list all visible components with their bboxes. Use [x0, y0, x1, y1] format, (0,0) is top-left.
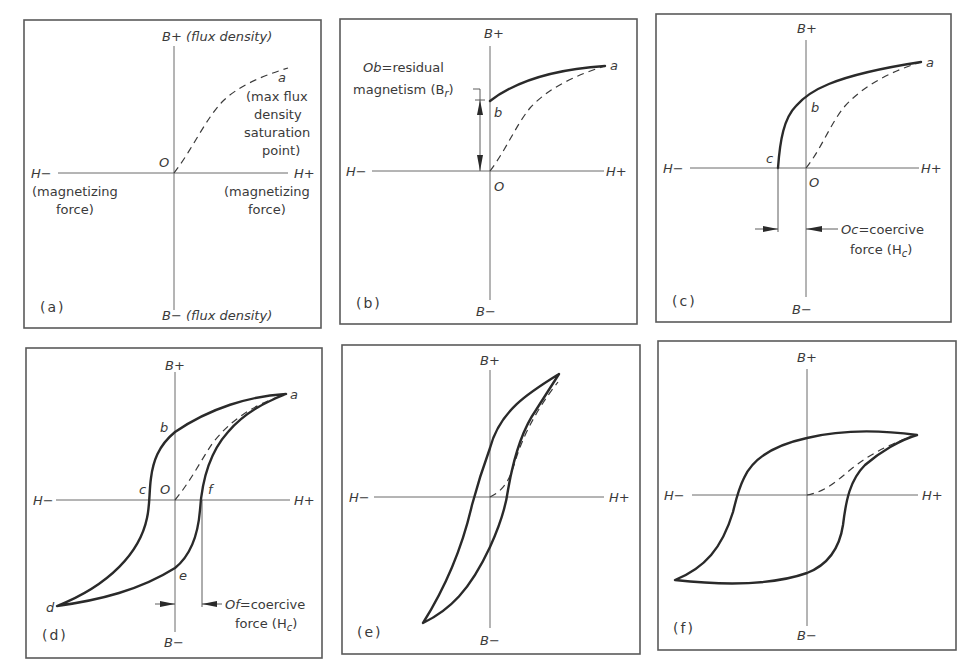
panel-d: B+ B− H− H+ O a b c d e f Of=coercive fo…: [26, 348, 322, 658]
hysteresis-loop: [423, 374, 559, 623]
axis-bottom-label: B−: [480, 633, 500, 648]
hysteresis-loop: [675, 432, 917, 584]
origin-label: O: [809, 175, 819, 190]
panel-label: (b): [356, 295, 382, 311]
point-a-label: a: [278, 70, 286, 85]
initial-magnetization-curve: [807, 435, 917, 495]
panel-f: B+ B− H− H+ (f): [658, 341, 956, 650]
initial-magnetization-curve: [490, 66, 605, 171]
panel-b: B+ B− H− H+ O a b Ob=residual magnetism …: [340, 19, 637, 324]
panel-e: B+ B− H− H+ (e): [342, 345, 640, 654]
panel-c: B+ B− H− H+ O a b c Oc=coercive force (H…: [656, 14, 951, 322]
panel-label: (c): [672, 293, 697, 309]
coercive-annotation-line2: force (Hc): [235, 616, 297, 633]
point-a-note-4: point): [262, 143, 300, 158]
arrow-up-icon: [477, 100, 483, 115]
origin-label: O: [159, 155, 169, 170]
origin-label: O: [494, 179, 504, 194]
point-b-label: b: [160, 420, 168, 435]
point-c-label: c: [766, 151, 773, 166]
axis-right-label: H+: [922, 488, 943, 503]
axis-bottom-label: B−: [797, 628, 817, 643]
arrow-left-icon: [202, 601, 217, 607]
axis-right-label: H+: [921, 161, 942, 176]
axis-left-label: H−: [663, 161, 684, 176]
demagnetization-curve-abc: [778, 62, 921, 168]
coercive-annotation-line1: Oc=coercive: [841, 222, 924, 237]
left-caption-line2: force): [56, 202, 94, 217]
initial-magnetization-curve: [175, 394, 286, 500]
axis-top-label: B+: [484, 26, 504, 41]
axis-left-label: H−: [346, 164, 367, 179]
axis-top-label: B+: [165, 358, 185, 373]
initial-magnetization-curve: [806, 62, 921, 168]
point-a-label: a: [610, 58, 618, 73]
axis-bottom-label: B−: [792, 302, 812, 317]
point-b-label: b: [494, 105, 502, 120]
point-a-note-3: saturation: [244, 125, 310, 140]
axis-left-label: H−: [349, 490, 370, 505]
axis-right-label: H+: [294, 166, 315, 181]
panel-label: (d): [42, 627, 68, 643]
axis-right-label: H+: [294, 493, 315, 508]
point-b-label: b: [811, 100, 819, 115]
axis-left-label: H−: [33, 493, 54, 508]
panel-label: (a): [40, 299, 66, 315]
origin-label: O: [160, 482, 170, 497]
point-f-label: f: [208, 482, 215, 497]
axis-bottom-label: B−: [476, 304, 496, 319]
left-caption-line1: (magnetizing: [32, 184, 118, 199]
point-e-label: e: [179, 568, 187, 583]
point-a-label: a: [926, 55, 934, 70]
arrow-right-icon: [763, 226, 778, 232]
axis-right-label: H+: [609, 490, 630, 505]
point-a-note-1: (max flux: [246, 89, 308, 104]
coercive-annotation-line1: Of=coercive: [225, 597, 305, 612]
axis-top-label: B+: [480, 353, 500, 368]
arrow-right-icon: [160, 601, 175, 607]
coercive-annotation-line2: force (Hc): [850, 242, 912, 259]
axis-right-label: H+: [606, 164, 627, 179]
point-d-label: d: [46, 600, 55, 615]
residual-annotation-line2: magnetism (Br): [353, 82, 454, 99]
panel-label: (f): [673, 620, 695, 636]
panel-label: (e): [357, 624, 383, 640]
axis-top-label: B+: [797, 21, 817, 36]
residual-annotation-line1: Ob=residual: [363, 60, 444, 75]
hysteresis-figure: B+ (flux density) B− (flux density) H− (…: [0, 0, 975, 667]
point-c-label: c: [139, 482, 146, 497]
residual-annotation-rest: =residual: [381, 60, 443, 75]
arrow-down-icon: [477, 155, 483, 171]
point-a-note-2: density: [254, 107, 302, 122]
arrow-left-icon: [806, 226, 822, 232]
panel-a-frame: [24, 20, 321, 328]
axis-left-label: H−: [31, 166, 52, 181]
right-caption-line2: force): [248, 202, 286, 217]
axis-left-label: H−: [664, 488, 685, 503]
point-a-label: a: [290, 387, 298, 402]
axis-bottom-label: B− (flux density): [162, 308, 272, 323]
axis-top-label: B+: [797, 350, 817, 365]
demagnetization-curve-ab: [490, 66, 605, 101]
panel-e-frame: [342, 345, 640, 654]
axis-top-label: B+ (flux density): [162, 29, 272, 44]
axis-bottom-label: B−: [164, 635, 184, 650]
right-caption-line1: (magnetizing: [224, 184, 310, 199]
panel-a: B+ (flux density) B− (flux density) H− (…: [24, 20, 321, 328]
